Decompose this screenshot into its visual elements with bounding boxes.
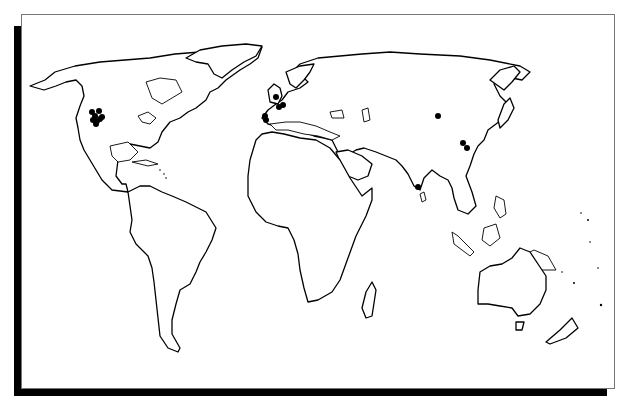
philippines [494, 196, 506, 218]
sumatra [452, 232, 474, 256]
caribbean-island [165, 177, 167, 179]
location-marker [464, 145, 470, 151]
tasmania-outline [516, 322, 524, 330]
south-america-outline [128, 186, 216, 352]
pacific-island [597, 267, 599, 269]
pacific-island [589, 241, 591, 243]
location-marker [435, 113, 441, 119]
pacific-island [573, 282, 575, 284]
location-marker [273, 94, 279, 100]
caribbean-island [159, 169, 161, 171]
sri-lanka [420, 192, 426, 202]
british-isles-outline [268, 84, 282, 104]
black-sea [330, 110, 344, 118]
new-zealand-outline [546, 318, 578, 344]
caspian-sea [362, 108, 370, 122]
madagascar-outline [362, 282, 376, 318]
location-marker [96, 108, 102, 114]
location-marker [415, 184, 421, 190]
location-marker [93, 121, 99, 127]
location-marker [97, 116, 103, 122]
location-marker [263, 117, 269, 123]
location-marker [280, 102, 286, 108]
location-marker [460, 140, 466, 146]
pacific-island [587, 219, 589, 221]
caribbean-island [163, 173, 165, 175]
pacific-island [600, 304, 602, 306]
cuba [132, 160, 158, 166]
borneo [482, 224, 500, 246]
world-map [0, 0, 627, 407]
pacific-island [561, 271, 563, 273]
pacific-island [580, 212, 582, 214]
